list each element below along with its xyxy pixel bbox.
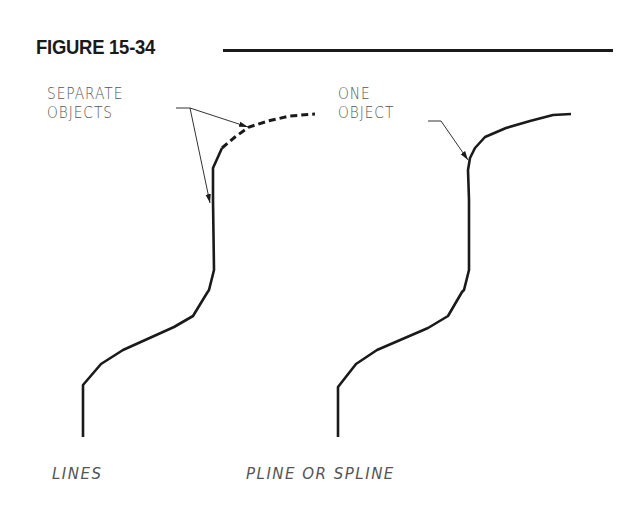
lines-caption: LINES: [52, 465, 103, 483]
pline-spline-caption: PLINE OR SPLINE: [246, 465, 395, 483]
drawing-canvas: [0, 0, 637, 505]
right-leader: [428, 121, 468, 160]
right-continuous-curve: [338, 114, 571, 437]
left-solid-line: [83, 148, 222, 437]
left-dashed-arc: [222, 114, 315, 148]
